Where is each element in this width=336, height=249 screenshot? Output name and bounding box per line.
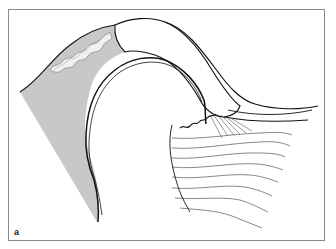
condyle-outer-contour (86, 58, 206, 222)
lateral-contour-2 (228, 110, 312, 115)
articular-disc (115, 18, 240, 117)
shaded-tissue-region (20, 25, 125, 222)
anatomical-figure: a (0, 0, 336, 249)
joint-illustration (0, 0, 336, 249)
lateral-contour (224, 117, 308, 121)
muscle-fibers (172, 132, 292, 228)
panel-label: a (14, 228, 19, 237)
radiating-fibers (210, 114, 252, 138)
